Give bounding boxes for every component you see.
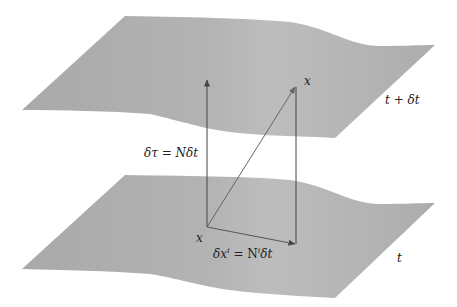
upper-point-label: x bbox=[304, 74, 311, 88]
lower-point-label: x bbox=[196, 231, 203, 245]
upper-surface-label: t + δt bbox=[385, 93, 420, 107]
shift-label: δxi = Niδt bbox=[213, 246, 273, 261]
foliation-diagram: x t + δt δτ = Nδt x δxi = Niδt t bbox=[0, 0, 457, 307]
lapse-label: δτ = Nδt bbox=[144, 146, 198, 160]
shift-label-eq: = N bbox=[230, 247, 258, 261]
shift-label-main: δx bbox=[213, 247, 227, 261]
lower-surface-label: t bbox=[397, 251, 402, 265]
shift-label-tail: δt bbox=[260, 247, 272, 261]
upper-hypersurface bbox=[22, 16, 435, 138]
